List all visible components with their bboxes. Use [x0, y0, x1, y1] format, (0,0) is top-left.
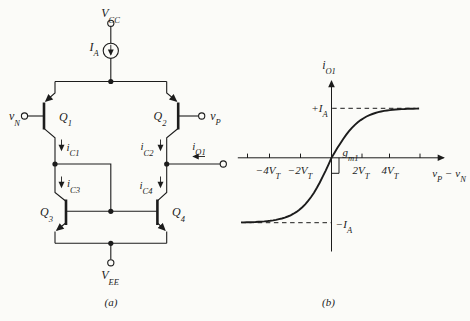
tick-label-minus-4vt: −4VT — [256, 164, 280, 175]
label-vcc: VCC — [101, 7, 120, 19]
q2-emitter — [167, 82, 177, 101]
terminal-io1 — [220, 161, 226, 167]
terminal-vp — [199, 113, 205, 119]
terminal-vn — [21, 113, 27, 119]
label-q1: Q1 — [59, 111, 72, 123]
q4-emitter — [158, 223, 165, 230]
tick-label-plus-4vt: 4VT — [382, 164, 399, 175]
q1-emitter — [46, 82, 55, 101]
label-vee: VEE — [101, 269, 119, 281]
caption-a: (a) — [105, 296, 118, 307]
label-vp: vP — [210, 110, 221, 122]
wire-mirror-input — [55, 164, 111, 211]
label-vp-minus-vn-axis: vP − vN — [432, 167, 466, 178]
label-ic2: iC2 — [141, 141, 154, 152]
tick-label-plus-2vt: 2VT — [353, 164, 370, 175]
q2-collector — [167, 129, 178, 164]
label-minus-ia: −IA — [336, 218, 352, 229]
q4-collector — [157, 164, 166, 201]
q1-collector — [45, 129, 56, 164]
label-vn: vN — [9, 110, 20, 122]
figure: VCC IA vN vP Q1 Q2 Q3 Q4 iC1 iC2 iC3 iC4… — [0, 0, 470, 321]
terminal-vee — [108, 260, 114, 266]
label-io1-circuit: iO1 — [192, 140, 205, 151]
node-dot — [52, 161, 57, 166]
label-plus-ia: +IA — [311, 102, 327, 113]
q3-emitter — [57, 223, 65, 230]
label-q2: Q2 — [154, 110, 167, 122]
label-ia: IA — [89, 41, 98, 53]
node-dot — [108, 209, 113, 214]
label-gm1: gm1 — [343, 146, 359, 157]
label-ic3: iC3 — [67, 178, 80, 189]
label-ic1: iC1 — [67, 141, 80, 152]
caption-b: (b) — [322, 296, 335, 307]
node-dot — [164, 161, 169, 166]
figure-canvas — [0, 0, 470, 321]
label-q4: Q4 — [172, 206, 185, 218]
tick-label-minus-2vt: −2VT — [288, 164, 312, 175]
gm1-slope-mark — [332, 158, 340, 174]
node-dot — [108, 241, 113, 246]
node-dot — [108, 79, 113, 84]
q3-collector — [55, 164, 65, 201]
label-io1-axis: iO1 — [322, 59, 336, 71]
label-ic4: iC4 — [140, 179, 153, 190]
label-q3: Q3 — [40, 206, 53, 218]
